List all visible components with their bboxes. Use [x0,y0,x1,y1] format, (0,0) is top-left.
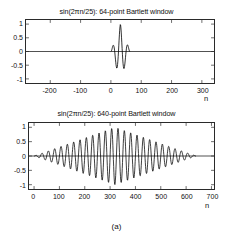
waveform-trace [111,25,130,69]
x-axis-label-64-point: n [204,95,208,103]
x-axis-tick-label: -200 [43,87,57,94]
y-axis-tick-label: -0.5 [1,62,23,69]
x-axis-tick-label: -100 [73,87,87,94]
figure-container: sin(2πn/25): 64-point Bartlett window 10… [0,0,233,241]
waveform-trace [34,128,196,184]
x-axis-tick-label: 200 [166,87,178,94]
x-axis-tick-label: 0 [109,87,113,94]
x-axis-tick-label: 400 [130,193,142,200]
waveform-plot-640-point [29,123,214,189]
x-axis-tick-label: 100 [53,193,65,200]
y-axis-tick-label: 1 [4,123,26,130]
y-axis-tick-label: 1 [1,20,23,27]
waveform-plot-64-point [26,20,214,83]
chart-panel-640-point: sin(2πn/25): 640-point Bartlett window 1… [0,105,233,213]
x-axis-tick-label: 300 [197,87,209,94]
y-axis-tick-labels-640-point: 10.50-0.5-1 [4,122,26,190]
figure-caption: (a) [0,222,233,232]
x-axis-tick-label: 200 [79,193,91,200]
x-axis-tick-label: 700 [207,193,219,200]
plot-area-64-point [25,19,215,84]
y-axis-tick-label: 0.5 [1,34,23,41]
x-axis-label-640-point: n [205,202,209,210]
y-axis-tick-labels-64-point: 10.50-0.5-1 [1,19,23,84]
chart-panel-64-point: sin(2πn/25): 64-point Bartlett window 10… [0,0,233,105]
y-axis-tick-label: 0 [1,48,23,55]
y-axis-tick-label: -1 [1,76,23,83]
chart-title-640-point: sin(2πn/25): 640-point Bartlett window [0,109,233,118]
y-axis-tick-label: -0.5 [4,167,26,174]
chart-title-64-point: sin(2πn/25): 64-point Bartlett window [0,7,233,16]
x-axis-tick-label: 100 [136,87,148,94]
x-axis-tick-label: 500 [155,193,167,200]
x-axis-tick-label: 600 [181,193,193,200]
y-axis-tick-label: -1 [4,182,26,189]
y-axis-tick-label: 0 [4,153,26,160]
y-axis-tick-label: 0.5 [4,138,26,145]
x-axis-tick-label: 0 [31,193,35,200]
plot-area-640-point [28,122,215,190]
x-axis-tick-label: 300 [104,193,116,200]
